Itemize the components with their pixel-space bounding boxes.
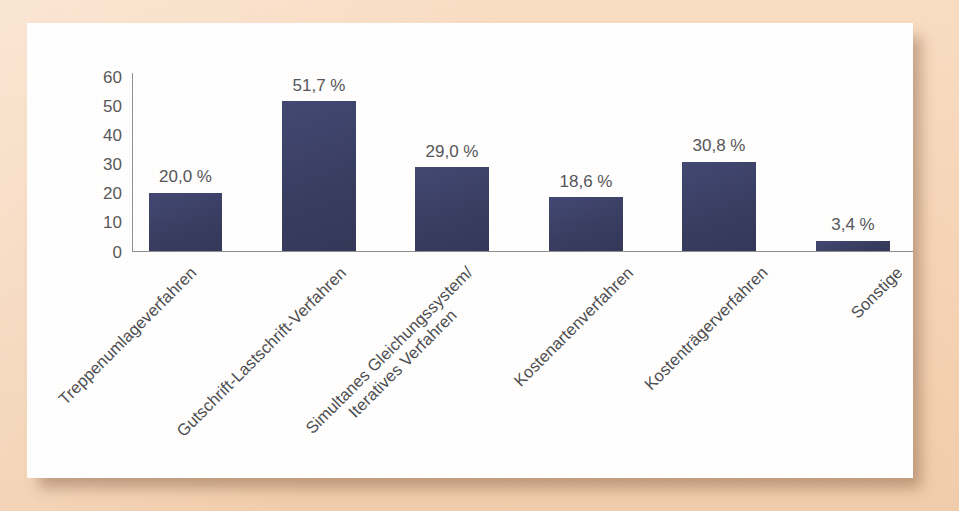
category-label-kostenartenverfahren: Kostenartenverfahren: [510, 263, 637, 390]
scanned-page: 60 50 40 30 20 10 0 20,0 % 51,7 % 29,0 %…: [0, 0, 959, 511]
bar-kostentraegerverfahren[interactable]: [682, 162, 756, 251]
bar-sonstige[interactable]: [816, 241, 890, 251]
y-tick-10: 10: [78, 214, 122, 231]
value-label-gutschrift-lastschrift-verfahren: 51,7 %: [282, 77, 356, 94]
bar-kostenartenverfahren[interactable]: [549, 197, 623, 251]
y-axis-tick-labels: 60 50 40 30 20 10 0: [74, 23, 122, 478]
chart-card: 60 50 40 30 20 10 0 20,0 % 51,7 % 29,0 %…: [27, 23, 913, 478]
value-label-kostentraegerverfahren: 30,8 %: [682, 137, 756, 154]
value-label-sonstige: 3,4 %: [816, 216, 890, 233]
value-label-simultanes-gleichungssystem: 29,0 %: [415, 143, 489, 160]
y-tick-40: 40: [78, 127, 122, 144]
bar-treppenumlageverfahren[interactable]: [149, 193, 222, 251]
y-axis-line: [132, 73, 133, 252]
y-tick-60: 60: [78, 69, 122, 86]
y-tick-30: 30: [78, 156, 122, 173]
value-label-treppenumlageverfahren: 20,0 %: [149, 168, 222, 185]
category-label-sonstige: Sonstige: [847, 263, 907, 323]
bar-simultanes-gleichungssystem[interactable]: [415, 167, 489, 251]
value-label-kostenartenverfahren: 18,6 %: [549, 173, 623, 190]
category-label-kostentraegerverfahren: Kostenträgerverfahren: [641, 263, 772, 394]
y-tick-0: 0: [78, 244, 122, 261]
bar-gutschrift-lastschrift-verfahren[interactable]: [282, 101, 356, 251]
bar-chart: 60 50 40 30 20 10 0 20,0 % 51,7 % 29,0 %…: [27, 23, 913, 478]
category-label-line-2: Iteratives Verfahren: [316, 276, 491, 451]
y-tick-50: 50: [78, 98, 122, 115]
x-axis-line: [132, 251, 913, 252]
category-label-line-1: Kostenartenverfahren: [510, 263, 636, 389]
category-label-line-1: Kostenträgerverfahren: [641, 263, 771, 393]
y-tick-20: 20: [78, 185, 122, 202]
category-label-line-1: Sonstige: [847, 263, 906, 322]
